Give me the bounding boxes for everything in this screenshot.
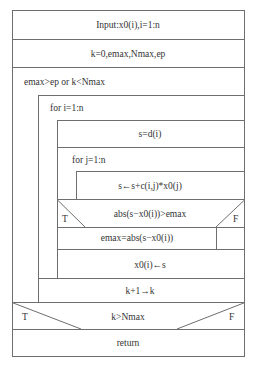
final-true-label: T: [22, 312, 28, 322]
for-j-loop-block: for j=1:n: [72, 155, 245, 199]
update-x0-block: x0(i)←s: [38, 260, 245, 279]
increment-k-text: k+1→k: [125, 286, 154, 296]
accumulate-text: s←s+c(i,j)*x0(j): [118, 181, 182, 192]
update-emax-block: emax=abs(s−x0(i)): [57, 227, 245, 250]
increment-k-block: k+1→k: [12, 286, 245, 303]
if-block: abs(s−x0(i))>emax T F: [57, 200, 245, 228]
init-text: k=0,emax,Nmax,ep: [91, 49, 166, 59]
input-text: Input:x0(i),i=1:n: [96, 20, 160, 31]
if-condition-text: abs(s−x0(i))>emax: [114, 209, 187, 220]
assign-s-text: s=d(i): [139, 129, 162, 140]
for-j-text: for j=1:n: [72, 155, 106, 165]
for-i-text: for i=1:n: [50, 103, 84, 113]
assign-s-block: s=d(i): [57, 129, 245, 148]
return-block: return: [117, 338, 140, 348]
update-x0-text: x0(i)←s: [134, 260, 166, 271]
nassi-shneiderman-diagram: Input:x0(i),i=1:n k=0,emax,Nmax,ep emax>…: [0, 0, 256, 370]
if-false-label: F: [233, 214, 238, 224]
update-emax-text: emax=abs(s−x0(i)): [101, 233, 173, 244]
init-block: k=0,emax,Nmax,ep: [12, 49, 245, 68]
while-condition-text: emax>ep or k<Nmax: [24, 77, 105, 87]
final-condition-text: k>Nmax: [111, 312, 145, 322]
final-false-label: F: [229, 312, 234, 322]
input-block: Input:x0(i),i=1:n: [12, 20, 245, 40]
if-true-label: T: [62, 214, 68, 224]
return-text: return: [117, 338, 140, 348]
accumulate-block: s←s+c(i,j)*x0(j): [57, 181, 245, 200]
final-condition-block: k>Nmax T F: [12, 303, 245, 330]
